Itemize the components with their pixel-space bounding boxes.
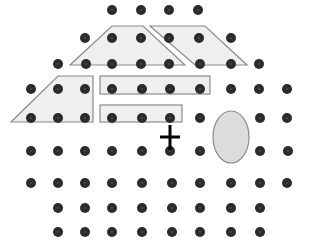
dot-center xyxy=(111,150,114,153)
dot-center xyxy=(199,182,202,185)
dot-center xyxy=(171,231,174,234)
dot-center xyxy=(141,117,144,120)
dot-center xyxy=(111,207,114,210)
dot-center xyxy=(258,88,261,91)
dot-center xyxy=(111,37,114,40)
dot-center xyxy=(57,231,60,234)
dot-center xyxy=(140,37,143,40)
dot-center xyxy=(171,207,174,210)
dot-center xyxy=(199,117,202,120)
dot-center xyxy=(169,150,172,153)
fixation-cross-icon xyxy=(160,125,180,150)
dot-center xyxy=(140,63,143,66)
dot-center xyxy=(30,150,33,153)
dot-center xyxy=(84,182,87,185)
dot-center xyxy=(111,231,114,234)
dot-center xyxy=(30,182,33,185)
dot-center xyxy=(85,63,88,66)
dot-center xyxy=(57,182,60,185)
dot-center xyxy=(141,88,144,91)
dot-center xyxy=(230,207,233,210)
dot-center xyxy=(141,182,144,185)
dot-center xyxy=(57,207,60,210)
dot-center xyxy=(258,63,261,66)
dot-center xyxy=(230,63,233,66)
dot-center xyxy=(57,150,60,153)
dot-center xyxy=(286,88,289,91)
dot-center xyxy=(111,63,114,66)
dot-center xyxy=(197,9,200,12)
dot-center xyxy=(259,182,262,185)
dot-center xyxy=(111,182,114,185)
dot-center xyxy=(57,117,60,120)
dot-center xyxy=(230,88,233,91)
dot-center xyxy=(111,9,114,12)
dot-center xyxy=(168,37,171,40)
dot-center xyxy=(30,117,33,120)
dot-center xyxy=(168,63,171,66)
rectangle-middle xyxy=(100,76,210,94)
dot-center xyxy=(141,207,144,210)
trapezoid-left xyxy=(11,76,93,122)
dot-center xyxy=(286,117,289,120)
dot-center xyxy=(287,150,290,153)
dot-center xyxy=(259,231,262,234)
dot-center xyxy=(199,150,202,153)
dot-center xyxy=(230,37,233,40)
ellipse-shape xyxy=(213,111,249,163)
dot-center xyxy=(140,9,143,12)
dot-center xyxy=(84,37,87,40)
diagram-canvas: Dot grid with overlaid shapes, ellipse a… xyxy=(0,0,309,247)
dot-center xyxy=(199,207,202,210)
dot-center xyxy=(199,231,202,234)
dot-center xyxy=(57,88,60,91)
ellipse-layer xyxy=(213,111,249,163)
dot-center xyxy=(141,150,144,153)
dot-center xyxy=(168,9,171,12)
dot-center xyxy=(230,182,233,185)
dot-center xyxy=(259,207,262,210)
dot-center xyxy=(141,231,144,234)
shapes-layer xyxy=(11,26,247,122)
dot-center xyxy=(198,37,201,40)
dot-center xyxy=(286,182,289,185)
dot-center xyxy=(84,231,87,234)
dot-center xyxy=(30,88,33,91)
dot-center xyxy=(111,117,114,120)
dot-center xyxy=(84,88,87,91)
dot-center xyxy=(199,88,202,91)
dot-center xyxy=(111,88,114,91)
dot-center xyxy=(84,117,87,120)
dot-center xyxy=(84,207,87,210)
dot-center xyxy=(84,150,87,153)
dot-center xyxy=(171,182,174,185)
dot-center xyxy=(199,63,202,66)
dot-center xyxy=(230,231,233,234)
dot-center xyxy=(169,88,172,91)
dot-center xyxy=(259,150,262,153)
dot-center xyxy=(169,117,172,120)
dot-center xyxy=(57,63,60,66)
diagram-svg xyxy=(0,0,309,247)
dot-center xyxy=(259,117,262,120)
